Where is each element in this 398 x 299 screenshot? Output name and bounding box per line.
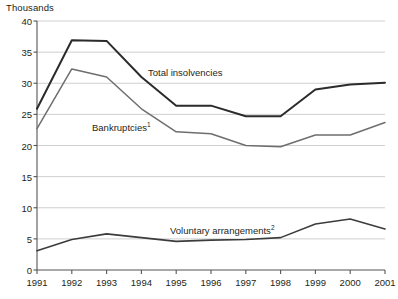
y-axis-tick-label: 20 (6, 140, 32, 151)
y-axis-tick-label: 10 (6, 202, 32, 213)
annotation-total-insolvencies: Total insolvencies (148, 67, 222, 78)
y-axis-tick-labels: 0510152025303540 (0, 0, 32, 299)
y-axis-tick-label: 25 (6, 109, 32, 120)
y-axis-tick-label: 30 (6, 78, 32, 89)
x-axis-ticks (37, 270, 385, 274)
x-axis-tick-label: 1997 (235, 277, 256, 288)
annotation-footnote-marker: 1 (147, 121, 151, 128)
x-axis-tick-label: 2001 (374, 277, 395, 288)
x-axis-tick-label: 1995 (166, 277, 187, 288)
y-axis-tick-label: 0 (6, 265, 32, 276)
insolvencies-line-chart: Thousands 0510152025303540 1991199219931… (0, 0, 398, 299)
y-axis-tick-label: 5 (6, 233, 32, 244)
series-line-bankruptcies (37, 69, 385, 147)
annotation-bankruptcies: Bankruptcies1 (92, 122, 151, 133)
y-axis-tick-label: 15 (6, 171, 32, 182)
y-axis-tick-label: 35 (6, 47, 32, 58)
x-axis-tick-label: 2000 (340, 277, 361, 288)
x-axis-tick-label: 1996 (200, 277, 221, 288)
x-axis-tick-label: 1992 (61, 277, 82, 288)
annotation-voluntary-arrangements: Voluntary arrangements2 (170, 225, 275, 236)
x-axis-tick-label: 1991 (26, 277, 47, 288)
y-axis-tick-label: 40 (6, 16, 32, 27)
x-axis-tick-label: 1998 (270, 277, 291, 288)
x-axis-tick-label: 1999 (305, 277, 326, 288)
annotation-footnote-marker: 2 (271, 224, 275, 231)
plot-area (0, 0, 398, 299)
x-axis-tick-label: 1994 (131, 277, 152, 288)
x-axis-tick-label: 1993 (96, 277, 117, 288)
